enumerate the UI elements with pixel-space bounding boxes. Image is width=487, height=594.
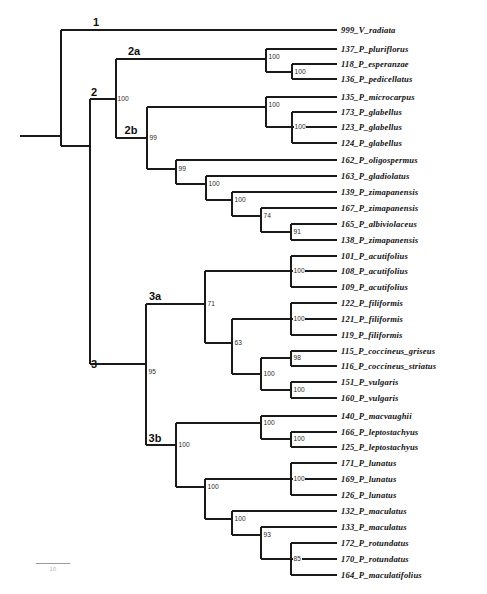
- tip-label: 118_P_esperanzae: [341, 60, 409, 69]
- bootstrap-support-value: 100: [263, 420, 275, 427]
- clade-label-3a: 3a: [149, 291, 161, 302]
- tip-label: 163_P_gladiolatus: [341, 172, 409, 181]
- bootstrap-support-value: 100: [234, 197, 246, 204]
- tip-label: 173_P_glabellus: [341, 108, 402, 117]
- tip-label: 162_P_oligospermus: [341, 156, 418, 165]
- bootstrap-support-value: 100: [178, 442, 190, 449]
- scale-bar: 10: [36, 563, 70, 572]
- bootstrap-support-value: 100: [263, 371, 275, 378]
- bootstrap-support-value: 100: [293, 268, 305, 275]
- tip-label: 124_P_glabellus: [341, 139, 402, 148]
- scale-bar-line: [36, 563, 70, 564]
- bootstrap-support-value: 98: [293, 355, 302, 362]
- bootstrap-support-value: 95: [148, 369, 157, 376]
- bootstrap-support-value: 100: [293, 316, 305, 323]
- tip-label: 160_P_vulgaris: [341, 394, 399, 403]
- tip-label: 115_P_coccineus_griseus: [341, 347, 435, 356]
- tip-label: 138_P_zimapanensis: [341, 236, 418, 245]
- tree-branches: [0, 0, 487, 594]
- tip-label: 132_P_maculatus: [341, 507, 407, 516]
- tip-label: 165_P_albiviolaceus: [341, 220, 417, 229]
- tip-label: 119_P_filiformis: [341, 331, 403, 340]
- tip-label: 122_P_filiformis: [341, 299, 403, 308]
- bootstrap-support-value: 74: [263, 213, 272, 220]
- bootstrap-support-value: 100: [293, 476, 305, 483]
- clade-label-2b: 2b: [125, 125, 138, 136]
- tip-label: 123_P_glabellus: [341, 123, 402, 132]
- phylogenetic-tree-figure: 999_V_radiata137_P_pluriflorus118_P_espe…: [0, 0, 487, 594]
- bootstrap-support-value: 85: [293, 556, 302, 563]
- tip-label: 171_P_lunatus: [341, 459, 396, 468]
- clade-label-2a: 2a: [128, 46, 140, 57]
- clade-label-1: 1: [93, 17, 99, 28]
- tip-label: 126_P_lunatus: [341, 491, 396, 500]
- bootstrap-support-value: 91: [293, 229, 302, 236]
- bootstrap-support-value: 63: [234, 340, 243, 347]
- bootstrap-support-value: 71: [207, 301, 216, 308]
- tip-label: 133_P_maculatus: [341, 523, 407, 532]
- bootstrap-support-value: 100: [268, 54, 280, 61]
- tip-label: 164_P_maculatifolius: [341, 571, 422, 580]
- tip-label: 167_P_zimapanensis: [341, 204, 418, 213]
- bootstrap-support-value: 99: [178, 166, 187, 173]
- bootstrap-support-value: 100: [293, 387, 305, 394]
- tip-label: 121_P_filiformis: [341, 315, 403, 324]
- bootstrap-support-value: 100: [268, 102, 280, 109]
- tip-label: 172_P_rotundatus: [341, 539, 409, 548]
- tip-label: 151_P_vulgaris: [341, 378, 399, 387]
- tip-label: 116_P_coccineus_striatus: [341, 362, 436, 371]
- tip-label: 108_P_acutifolius: [341, 267, 408, 276]
- bootstrap-support-value: 100: [117, 96, 129, 103]
- tip-label: 109_P_acutifolius: [341, 283, 408, 292]
- bootstrap-support-value: 100: [207, 484, 219, 491]
- tip-label: 125_P_leptostachyus: [341, 443, 418, 452]
- clade-label-3: 3: [91, 359, 97, 370]
- tip-label: 999_V_radiata: [341, 26, 395, 35]
- tip-label: 101_P_acutifolius: [341, 252, 408, 261]
- scale-bar-label: 10: [36, 566, 70, 572]
- tip-label: 137_P_pluriflorus: [341, 45, 409, 54]
- bootstrap-support-value: 93: [263, 532, 272, 539]
- bootstrap-support-value: 99: [149, 135, 158, 142]
- tip-label: 136_P_pedicellatus: [341, 75, 412, 84]
- tip-label: 139_P_zimapanensis: [341, 188, 418, 197]
- tip-label: 166_P_leptostachyus: [341, 428, 418, 437]
- tip-label: 140_P_macvaughii: [341, 412, 412, 421]
- clade-label-3b: 3b: [149, 433, 162, 444]
- tip-label: 169_P_lunatus: [341, 475, 396, 484]
- clade-label-2: 2: [91, 87, 97, 98]
- bootstrap-support-value: 100: [294, 69, 306, 76]
- bootstrap-support-value: 100: [294, 124, 306, 131]
- bootstrap-support-value: 100: [293, 436, 305, 443]
- bootstrap-support-value: 100: [208, 181, 220, 188]
- tip-label: 170_P_rotundatus: [341, 555, 409, 564]
- tip-label: 135_P_microcarpus: [341, 93, 415, 102]
- bootstrap-support-value: 100: [234, 516, 246, 523]
